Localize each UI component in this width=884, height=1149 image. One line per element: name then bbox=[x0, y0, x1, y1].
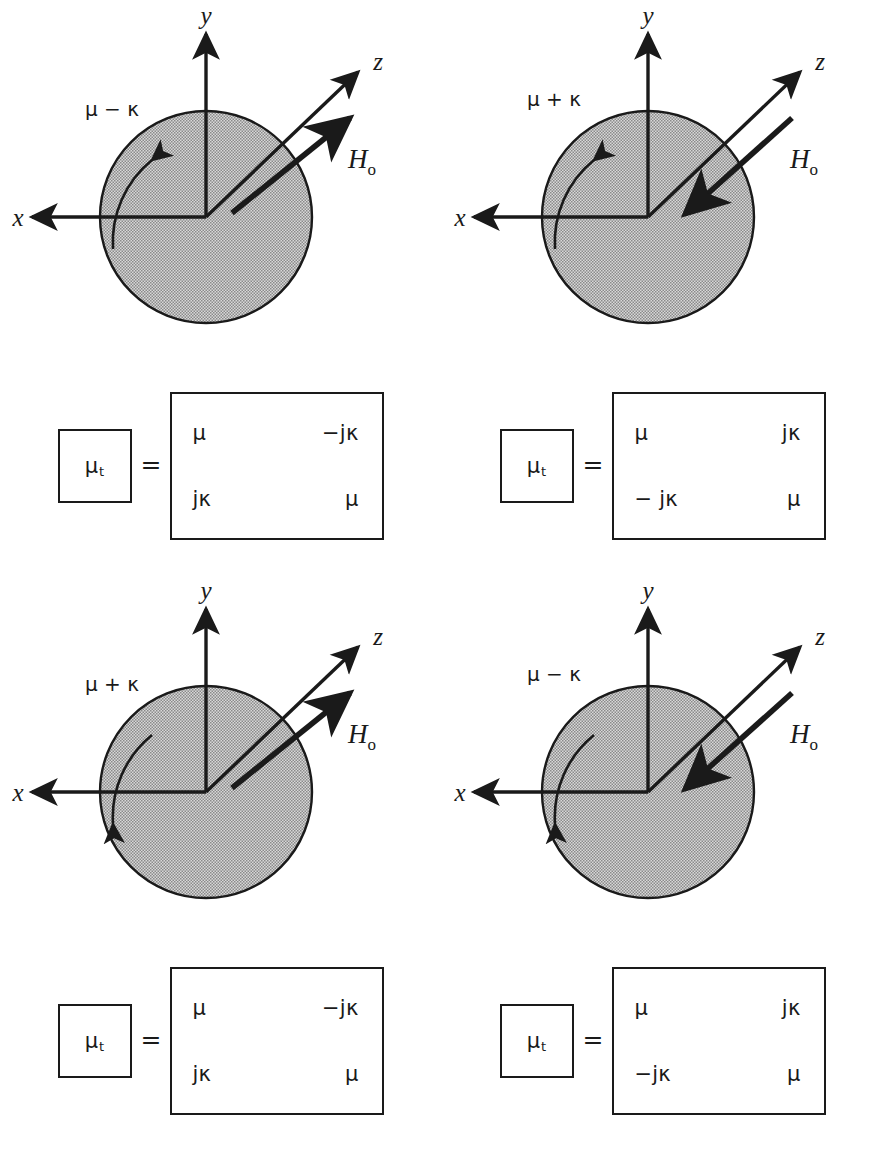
h0-label: Ho bbox=[347, 144, 376, 179]
matrix-cell-r1c0: −jκ bbox=[634, 1062, 720, 1086]
matrix-cell-r1c0: jκ bbox=[192, 1062, 278, 1086]
permeability-tensor-matrix: μ −jκ jκ μ bbox=[170, 392, 384, 540]
mu-t-symbol: μt bbox=[527, 1029, 547, 1054]
panel-bottom-left: y x z Ho μ + κ μt = μ −jκ jκ μ bbox=[0, 575, 442, 1149]
h0-subscript: o bbox=[368, 735, 377, 754]
matrix-cell-r0c0: μ bbox=[192, 996, 278, 1020]
panel-bottom-right: y x z Ho μ − κ μt = μ jκ −jκ μ bbox=[442, 575, 884, 1149]
z-axis-label: z bbox=[372, 623, 383, 650]
matrix-cell-r0c1: jκ bbox=[720, 421, 806, 445]
x-axis-label: x bbox=[11, 204, 23, 231]
matrix-cell-r0c0: μ bbox=[634, 421, 720, 445]
y-axis-label: y bbox=[639, 577, 654, 604]
y-axis-label: y bbox=[197, 2, 212, 29]
matrix-lhs-bracket: μt bbox=[58, 429, 132, 503]
z-axis-label: z bbox=[372, 48, 383, 75]
z-axis-label: z bbox=[814, 623, 825, 650]
diagram-top-right: y x z Ho μ + κ bbox=[442, 0, 884, 400]
equals-sign: = bbox=[141, 1025, 162, 1057]
permeability-label: μ + κ bbox=[85, 672, 139, 696]
x-axis-label: x bbox=[453, 204, 465, 231]
h0-subscript: o bbox=[368, 160, 377, 179]
h0-symbol: H bbox=[789, 719, 811, 749]
y-axis-label: y bbox=[197, 577, 212, 604]
h0-label: Ho bbox=[789, 719, 818, 754]
matrix-lhs-bracket: μt bbox=[58, 1004, 132, 1078]
figure-grid: y x z Ho μ − κ μt = μ −jκ jκ μ bbox=[0, 0, 884, 1149]
matrix-cell-r1c0: jκ bbox=[192, 487, 278, 511]
x-axis-label: x bbox=[11, 779, 23, 806]
matrix-cell-r1c1: μ bbox=[720, 1062, 806, 1086]
matrix-cell-r1c1: μ bbox=[278, 1062, 364, 1086]
permeability-label: μ − κ bbox=[527, 662, 581, 686]
diagram-bottom-right: y x z Ho μ − κ bbox=[442, 575, 884, 975]
panel-top-left: y x z Ho μ − κ μt = μ −jκ jκ μ bbox=[0, 0, 442, 574]
h0-subscript: o bbox=[810, 735, 819, 754]
permeability-tensor-matrix: μ jκ − jκ μ bbox=[612, 392, 826, 540]
h0-symbol: H bbox=[347, 719, 369, 749]
matrix-equation-top-left: μt = μ −jκ jκ μ bbox=[0, 392, 442, 540]
equals-sign: = bbox=[583, 1025, 604, 1057]
permeability-label: μ + κ bbox=[527, 87, 581, 111]
matrix-cell-r0c0: μ bbox=[192, 421, 278, 445]
matrix-cell-r0c1: −jκ bbox=[278, 996, 364, 1020]
h0-label: Ho bbox=[347, 719, 376, 754]
matrix-cell-r1c1: μ bbox=[278, 487, 364, 511]
matrix-equation-bottom-right: μt = μ jκ −jκ μ bbox=[442, 967, 884, 1115]
panel-top-right: y x z Ho μ + κ μt = μ jκ − jκ μ bbox=[442, 0, 884, 574]
matrix-lhs-bracket: μt bbox=[500, 1004, 574, 1078]
diagram-svg: y x z Ho μ − κ bbox=[0, 0, 442, 400]
matrix-lhs-bracket: μt bbox=[500, 429, 574, 503]
h0-symbol: H bbox=[347, 144, 369, 174]
equals-sign: = bbox=[141, 450, 162, 482]
equals-sign: = bbox=[583, 450, 604, 482]
diagram-svg: y x z Ho μ + κ bbox=[0, 575, 442, 975]
diagram-bottom-left: y x z Ho μ + κ bbox=[0, 575, 442, 975]
matrix-cell-r1c1: μ bbox=[720, 487, 806, 511]
diagram-svg: y x z Ho μ − κ bbox=[442, 575, 884, 975]
diagram-top-left: y x z Ho μ − κ bbox=[0, 0, 442, 400]
matrix-cell-r0c1: jκ bbox=[720, 996, 806, 1020]
mu-t-symbol: μt bbox=[527, 454, 547, 479]
matrix-cell-r0c1: −jκ bbox=[278, 421, 364, 445]
permeability-tensor-matrix: μ jκ −jκ μ bbox=[612, 967, 826, 1115]
matrix-equation-top-right: μt = μ jκ − jκ μ bbox=[442, 392, 884, 540]
mu-t-symbol: μt bbox=[85, 454, 105, 479]
h0-symbol: H bbox=[789, 144, 811, 174]
mu-t-symbol: μt bbox=[85, 1029, 105, 1054]
h0-label: Ho bbox=[789, 144, 818, 179]
z-axis-label: z bbox=[814, 48, 825, 75]
h0-subscript: o bbox=[810, 160, 819, 179]
matrix-equation-bottom-left: μt = μ −jκ jκ μ bbox=[0, 967, 442, 1115]
matrix-cell-r1c0: − jκ bbox=[634, 487, 720, 511]
x-axis-label: x bbox=[453, 779, 465, 806]
matrix-cell-r0c0: μ bbox=[634, 996, 720, 1020]
y-axis-label: y bbox=[639, 2, 654, 29]
diagram-svg: y x z Ho μ + κ bbox=[442, 0, 884, 400]
permeability-label: μ − κ bbox=[85, 97, 139, 121]
permeability-tensor-matrix: μ −jκ jκ μ bbox=[170, 967, 384, 1115]
